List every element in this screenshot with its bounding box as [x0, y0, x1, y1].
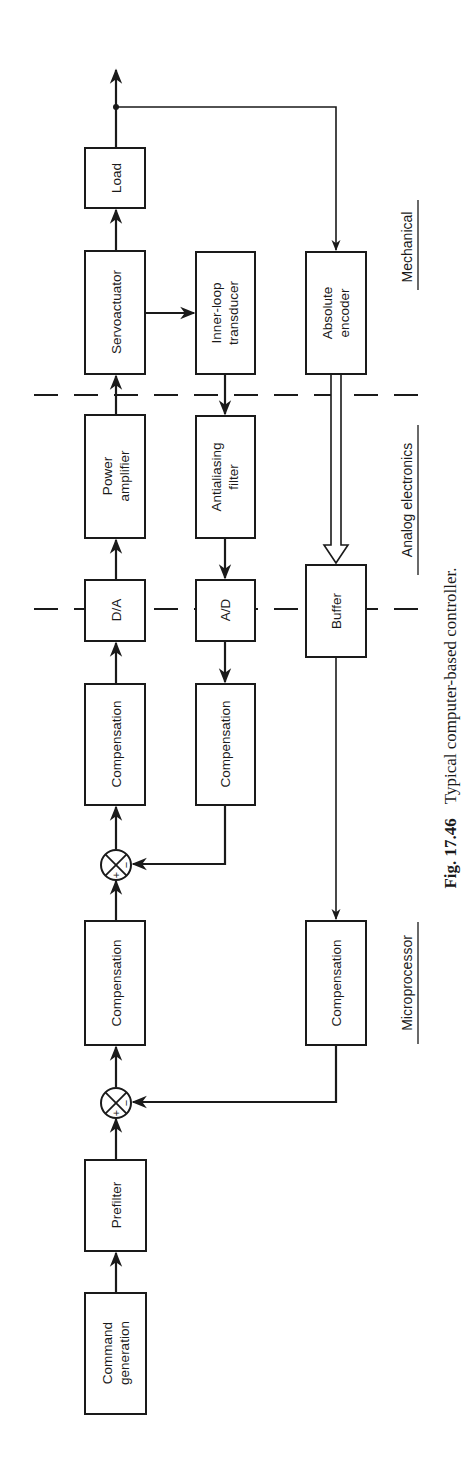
encoder-to-buffer-bus-arrow — [324, 374, 348, 563]
block-compensation-outer: Compensation — [306, 921, 366, 1045]
block-compensation-forward-2-label: Compensation — [109, 939, 124, 1026]
summing-junction-inner-minus: − — [120, 862, 132, 868]
block-ad-label: A/D — [218, 599, 233, 622]
block-inner-loop-transducer: Inner-loop transducer — [196, 252, 255, 374]
block-power-amplifier-label-2: amplifier — [117, 450, 132, 502]
block-ad: A/D — [196, 580, 255, 641]
block-diagram: Load Servoactuator Power amplifier D/A C… — [0, 0, 466, 1480]
figure-caption-description: Typical computer-based controller. — [441, 567, 460, 804]
section-mechanical-text: Mechanical — [399, 212, 415, 283]
block-absolute-encoder-label-1: Absolute — [320, 287, 335, 340]
block-antialiasing-filter-label-1: Antialiasing — [209, 442, 224, 511]
block-inner-loop-transducer-label-2: transducer — [226, 281, 241, 345]
summing-junction-outer: + − — [101, 1088, 132, 1118]
block-command-generation: Command generation — [85, 1293, 146, 1414]
figure-caption-number: Fig. 17.46 — [441, 818, 460, 888]
summing-junction-inner: + − — [101, 850, 132, 880]
block-absolute-encoder-label-2: encoder — [337, 288, 352, 337]
summing-junction-outer-minus: − — [120, 1100, 132, 1106]
block-da-label: D/A — [109, 599, 124, 622]
block-absolute-encoder: Absolute encoder — [306, 252, 366, 374]
block-compensation-inner: Compensation — [196, 684, 255, 805]
block-compensation-forward-1-label: Compensation — [109, 700, 124, 787]
block-antialiasing-filter: Antialiasing filter — [196, 416, 255, 538]
block-command-generation-label-2: generation — [117, 1321, 132, 1385]
block-load-label: Load — [109, 163, 124, 193]
block-prefilter-label: Prefilter — [109, 1181, 124, 1228]
block-buffer-label: Buffer — [329, 593, 344, 629]
block-da: D/A — [85, 580, 145, 641]
block-load: Load — [85, 148, 145, 208]
block-servoactuator: Servoactuator — [85, 251, 145, 374]
section-microprocessor-text: Microprocessor — [399, 935, 415, 1031]
figure-caption-text: Fig. 17.46 Typical computer-based contro… — [441, 567, 460, 888]
block-servoactuator-label: Servoactuator — [109, 269, 124, 354]
block-compensation-outer-label: Compensation — [329, 939, 344, 1026]
compouter-to-sumouter-wire — [133, 1045, 336, 1102]
section-label-mechanical: Mechanical — [399, 200, 418, 290]
block-compensation-forward-2: Compensation — [85, 921, 145, 1045]
block-inner-loop-transducer-label-1: Inner-loop — [209, 283, 224, 344]
block-command-generation-label-1: Command — [100, 1322, 115, 1384]
block-compensation-inner-label: Compensation — [218, 700, 233, 787]
block-power-amplifier-label-1: Power — [100, 456, 115, 495]
compinner-to-suminner-wire — [133, 805, 225, 864]
output-to-encoder-wire — [116, 107, 336, 250]
summing-junction-inner-plus: + — [110, 872, 122, 878]
section-label-analog: Analog electronics — [399, 425, 418, 575]
section-label-microprocessor: Microprocessor — [399, 922, 418, 1044]
summing-junction-outer-plus: + — [110, 1110, 122, 1116]
block-prefilter: Prefilter — [85, 1160, 146, 1251]
block-buffer: Buffer — [306, 565, 366, 657]
figure-caption: Fig. 17.46 Typical computer-based contro… — [441, 567, 460, 888]
block-compensation-forward-1: Compensation — [85, 684, 145, 805]
block-antialiasing-filter-label-2: filter — [226, 464, 241, 490]
block-power-amplifier: Power amplifier — [85, 415, 145, 538]
section-analog-text: Analog electronics — [399, 443, 415, 557]
